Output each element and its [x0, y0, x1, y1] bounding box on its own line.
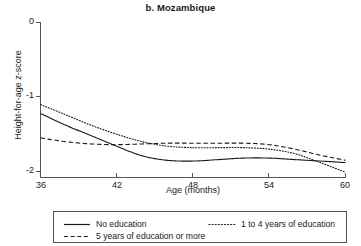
chart-figure: b. Mozambique Height-for-age z-score Age…	[0, 0, 361, 246]
y-axis-ticks	[36, 23, 41, 172]
x-axis-ticks	[41, 173, 346, 178]
legend-label-1to4-years: 1 to 4 years of education	[241, 219, 335, 229]
series-line-dotted-1to4-years	[41, 104, 346, 172]
legend-swatch-dotted-icon	[207, 219, 237, 230]
legend-label-no-education: No education	[96, 219, 147, 229]
legend-swatch-solid-icon	[62, 219, 92, 230]
legend-swatch-dashed-icon	[62, 231, 92, 242]
series-line-dashed-5plus-years	[41, 138, 346, 160]
legend-label-5plus-years: 5 years of education or more	[96, 231, 205, 241]
legend: No education 1 to 4 years of education 5…	[53, 211, 347, 243]
axis-spines	[41, 22, 346, 178]
plot-area	[0, 0, 361, 246]
data-series-group	[41, 104, 346, 172]
